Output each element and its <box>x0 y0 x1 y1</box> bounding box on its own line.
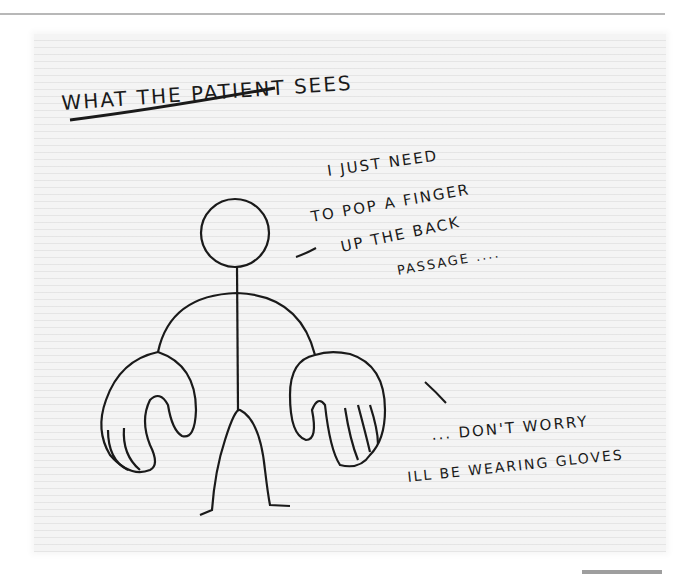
speech-tick-top <box>296 248 316 257</box>
speech-top-line-1: I JUST NEED <box>326 147 439 180</box>
speech-top: I JUST NEED TO POP A FINGER UP THE BACK … <box>309 147 502 278</box>
right-finger-line-2 <box>358 405 370 452</box>
head <box>201 199 269 267</box>
cartoon-drawing: WHAT THE PATIENT SEES I JUST NEED TO POP… <box>0 0 697 574</box>
bottom-scroll-bar <box>582 570 662 574</box>
speech-top-line-4: PASSAGE .... <box>396 245 501 278</box>
right-finger-line-3 <box>370 405 378 444</box>
speech-bottom: ... DON'T WORRY ILL BE WEARING GLOVES <box>407 412 625 485</box>
legs <box>200 410 290 515</box>
speech-bottom-line-1: ... DON'T WORRY <box>431 412 589 444</box>
speech-tick-bottom <box>425 382 446 403</box>
right-finger-line-1 <box>345 408 358 460</box>
cartoon-title: WHAT THE PATIENT SEES <box>61 71 354 115</box>
body <box>237 266 238 410</box>
left-finger-line-2 <box>108 430 128 470</box>
speech-top-line-3: UP THE BACK <box>339 213 462 256</box>
speech-bottom-line-2: ILL BE WEARING GLOVES <box>407 446 625 485</box>
left-glove <box>101 352 196 472</box>
left-finger-line-1 <box>124 428 140 470</box>
